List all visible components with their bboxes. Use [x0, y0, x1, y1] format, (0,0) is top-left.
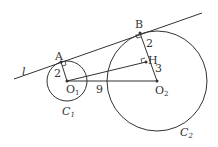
label-o2: O2 [155, 84, 169, 98]
label-c2: C2 [180, 126, 193, 140]
geometry-diagram: l A B H O1 O2 C1 C2 2 2 3 9 [0, 0, 218, 147]
label-o1: O1 [66, 83, 80, 97]
label-l: l [22, 65, 26, 78]
point-b [139, 32, 142, 35]
point-o2 [156, 80, 159, 83]
length-o1o2: 9 [96, 83, 103, 96]
label-b: B [135, 18, 143, 31]
length-ho2: 3 [155, 62, 162, 75]
label-a: A [54, 50, 64, 63]
label-c1: C1 [62, 105, 75, 119]
length-ao1: 2 [54, 67, 61, 80]
length-bh: 2 [146, 37, 153, 50]
